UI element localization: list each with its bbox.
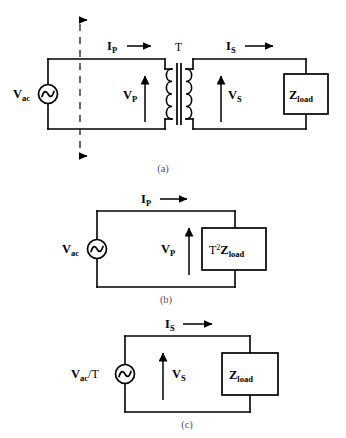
panel-b-caption: (b) — [160, 294, 173, 306]
panel-c-voltage-secondary-label: VS — [172, 367, 186, 383]
panel-c-current-secondary-label: IS — [165, 317, 175, 333]
panel-a-voltage-primary-label: VP — [123, 88, 137, 104]
panel-a-secondary-winding — [186, 69, 192, 119]
panel-c-caption: (c) — [181, 419, 193, 431]
panel-b-current-primary-label: IP — [141, 192, 151, 208]
figure-root: Vac IP IS VP VS Zload T (a) — [0, 0, 346, 438]
panel-a-primary-winding — [166, 69, 172, 119]
panel-a-source-label: Vac — [13, 87, 30, 103]
panel-b: Vac IP VP T2Zload (b) — [62, 192, 266, 306]
panel-a: Vac IP IS VP VS Zload T (a) — [13, 20, 328, 175]
panel-a-voltage-secondary-label: VS — [228, 88, 242, 104]
panel-a-current-secondary-label: IS — [226, 39, 236, 55]
panel-c-source-label: Vac/T — [71, 367, 99, 383]
panel-b-source-label: Vac — [62, 242, 79, 258]
circuit-diagram-svg: Vac IP IS VP VS Zload T (a) — [0, 0, 346, 438]
panel-a-transformer-label: T — [175, 41, 182, 53]
panel-c: Vac/T IS VS Zload (c) — [71, 317, 278, 431]
panel-a-current-primary-label: IP — [107, 39, 117, 55]
panel-b-voltage-primary-label: VP — [161, 242, 175, 258]
panel-a-caption: (a) — [157, 163, 169, 175]
